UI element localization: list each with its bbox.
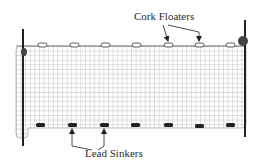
cork-floater-icon [195, 43, 204, 47]
right-buoy-icon [238, 36, 248, 46]
lead-sinkers-label: Lead Sinkers [85, 148, 143, 159]
floater-callout-arrows [163, 25, 199, 41]
cork-floater-icon [164, 43, 173, 47]
cork-floaters-label: Cork Floaters [134, 11, 194, 22]
cork-floater-icon [70, 43, 79, 47]
left-buoy-icon [21, 48, 27, 56]
cork-floater-icon [101, 43, 110, 47]
lead-sinker-icon [164, 123, 173, 127]
lead-sinker-icon [100, 123, 109, 127]
cork-floater-icon [226, 43, 235, 47]
lead-sinker-icon [195, 124, 204, 128]
lead-sinker-icon [131, 123, 140, 127]
net-mesh [16, 46, 246, 138]
cork-floater-icon [38, 43, 47, 47]
lead-sinker-icon [36, 123, 45, 127]
cork-floater-icon [132, 43, 141, 47]
lead-sinker-icon [68, 123, 77, 127]
lead-sinker-icon [226, 123, 235, 127]
fishing-net-diagram [0, 0, 263, 164]
